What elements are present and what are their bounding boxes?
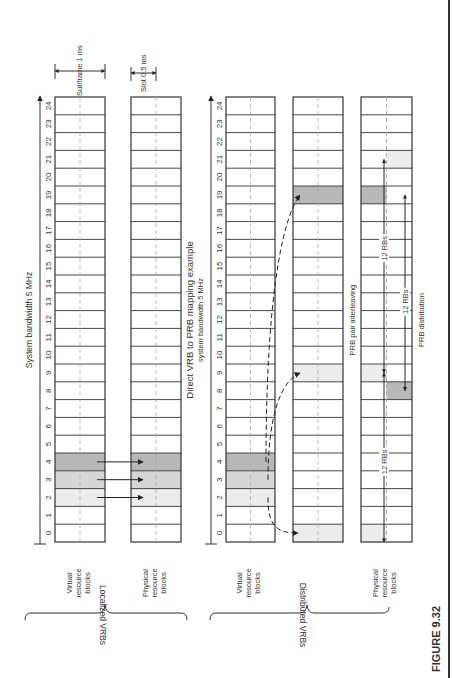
distributed-vrb-label: blocks	[253, 572, 262, 594]
localized-prb-label: Physical	[141, 569, 150, 597]
prb-pair-interleaving-label: PRB pair interleaving	[348, 285, 357, 355]
subframe-label: Subframe 1 ms	[75, 45, 84, 96]
block-index-label: 24	[215, 101, 224, 110]
block-index-label: 13	[44, 297, 53, 306]
block-index-label: 4	[215, 459, 224, 464]
localized-vrb-label: resource	[74, 568, 83, 597]
block-index-label: 20	[44, 172, 53, 181]
shaded-block-21	[387, 150, 413, 168]
prb-distribution-label: PRB distribution	[417, 293, 426, 347]
block-index-label: 7	[215, 406, 224, 411]
block-index-label: 6	[44, 424, 53, 429]
interleaved-prb-column	[293, 97, 343, 542]
distributed-prb-label: blocks	[389, 572, 398, 594]
block-index-label: 5	[44, 441, 53, 446]
shaded-block-19	[361, 186, 387, 204]
block-index-label: 14	[44, 279, 53, 288]
block-index-label: 8	[215, 388, 224, 393]
block-index-label: 19	[44, 190, 53, 199]
block-index-label: 15	[44, 261, 53, 270]
distributed-vrb-label: Virtual	[235, 572, 244, 593]
block-index-label: 17	[215, 226, 224, 235]
block-index-label: 22	[44, 137, 53, 146]
distributed-prb-label: resource	[380, 568, 389, 597]
localized-vrb-label: blocks	[83, 572, 92, 594]
block-index-label: 10	[44, 350, 53, 359]
localized-prb-label: blocks	[159, 572, 168, 594]
block-index-label: 10	[215, 350, 224, 359]
figure-frame-line	[448, 0, 450, 678]
block-index-label: 3	[215, 477, 224, 482]
block-index-label: 21	[44, 154, 53, 163]
block-index-label: 18	[215, 208, 224, 217]
distributed-vrb-label: resource	[244, 568, 253, 597]
block-index-label: 9	[215, 370, 224, 375]
block-index-label: 3	[44, 477, 53, 482]
block-index-label: 16	[44, 243, 53, 252]
diagram-canvas: 0123456789101112131415161718192021222324…	[0, 0, 452, 678]
block-index-label: 16	[215, 243, 224, 252]
block-index-label: 8	[44, 388, 53, 393]
block-index-label: 19	[215, 190, 224, 199]
twelve-rb-label: 12 RBs	[401, 289, 410, 314]
block-index-label: 12	[215, 315, 224, 324]
block-index-label: 18	[44, 208, 53, 217]
block-index-label: 20	[215, 172, 224, 181]
block-index-label: 23	[44, 119, 53, 128]
block-index-label: 0	[215, 530, 224, 535]
localized-vrb-column	[55, 97, 105, 542]
vrb-prb-mapping-figure: 0123456789101112131415161718192021222324…	[0, 0, 452, 678]
localized-block-indices: 0123456789101112131415161718192021222324	[34, 96, 53, 544]
block-index-label: 23	[215, 119, 224, 128]
block-index-label: 1	[44, 513, 53, 518]
block-index-label: 6	[215, 424, 224, 429]
block-index-label: 11	[44, 333, 53, 342]
block-index-label: 21	[215, 154, 224, 163]
block-index-label: 24	[44, 101, 53, 110]
block-index-label: 9	[44, 370, 53, 375]
block-index-label: 22	[215, 137, 224, 146]
block-index-label: 14	[215, 279, 224, 288]
block-index-label: 2	[44, 495, 53, 500]
localized-group-label: Localized VRBs	[98, 585, 108, 645]
shaded-block-9	[361, 364, 387, 382]
localized-prb-label: resource	[150, 568, 159, 597]
block-index-label: 13	[215, 297, 224, 306]
slot-label: Slot 0.5 ms	[139, 54, 148, 92]
distributed-block-indices: 0123456789101112131415161718192021222324	[205, 96, 224, 544]
block-index-label: 1	[215, 513, 224, 518]
distributed-mapping-subtitle: system bandwidth 5 MHz	[196, 278, 205, 362]
distributed-prb-label: Physical	[371, 569, 380, 597]
block-index-label: 5	[215, 441, 224, 446]
figure-number-label: FIGURE 9.32	[430, 606, 442, 672]
block-index-label: 2	[215, 495, 224, 500]
block-index-label: 12	[44, 315, 53, 324]
block-index-label: 7	[44, 406, 53, 411]
block-index-label: 0	[44, 530, 53, 535]
localized-prb-column	[131, 97, 181, 542]
block-index-label: 15	[215, 261, 224, 270]
block-index-label: 4	[44, 459, 53, 464]
block-index-label: 17	[44, 226, 53, 235]
twelve-rb-label: 12 RBs	[380, 449, 389, 474]
localized-bandwidth-title: System bandwidth 5 MHz	[24, 272, 34, 368]
twelve-rb-label: 12 RBs	[380, 236, 389, 261]
block-index-label: 11	[215, 333, 224, 342]
localized-vrb-label: Virtual	[65, 572, 74, 593]
distributed-group-label: Distributed VRBs	[298, 583, 308, 648]
distributed-mapping-title: Direct VRB to PRB mapping example	[184, 241, 195, 398]
shaded-block-8	[387, 382, 413, 400]
shaded-block-0	[361, 524, 387, 542]
